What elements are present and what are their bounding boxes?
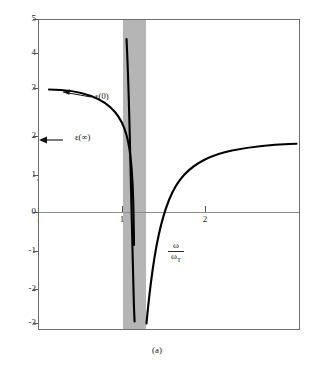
omega-subscript: T [177, 256, 181, 263]
curve-above-resonance [147, 144, 297, 324]
plot-area: ε(0) ε(∞) [38, 19, 300, 330]
epsilon-infinity-annotation [38, 130, 73, 150]
figure-container: Dielectric function ε(ω) 5 4 3 2 1 0 -1 … [0, 0, 314, 371]
epsilon-zero-label: ε(0) [95, 91, 108, 101]
x-tick-mark [122, 206, 123, 212]
x-tick-label: 1 [113, 214, 131, 224]
epsilon-infinity-label: ε(∞) [75, 132, 90, 142]
x-tick-mark [205, 206, 206, 212]
x-axis-label-denominator: ωT [168, 252, 184, 264]
epsilon-infinity-arrow [38, 130, 73, 150]
dielectric-curves [39, 20, 300, 330]
x-tick-label: 2 [196, 214, 214, 224]
x-axis-label: ω ωT [168, 241, 184, 264]
x-axis-label-numerator: ω [168, 241, 184, 250]
figure-caption: (a) [0, 345, 314, 355]
